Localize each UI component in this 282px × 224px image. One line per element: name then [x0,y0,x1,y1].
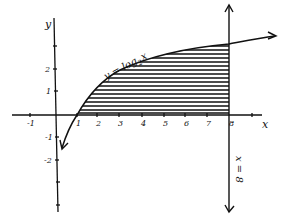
graph-svg: -1 1 2 3 4 5 6 7 8 1 2 -1 -2 y x y = log… [0,0,282,224]
y-tick-label: -2 [44,156,52,165]
curve-arrow-right-icon [268,32,276,39]
x-tick-label: 5 [163,119,168,128]
x-tick-label: -1 [27,119,35,128]
x-tick-label: 8 [229,119,234,128]
x-tick-label: 6 [184,119,189,128]
y-tick-label: -1 [45,133,53,142]
x-tick-label: 1 [76,119,81,128]
graph-canvas: -1 1 2 3 4 5 6 7 8 1 2 -1 -2 y x y = log… [0,0,282,224]
x-tick-labels: -1 1 2 3 4 5 6 7 8 [27,119,234,128]
x-tick-label: 3 [118,119,123,128]
y-axis-label: y [44,18,52,31]
y-tick-label: 2 [44,65,50,74]
curve-label: y = log2x [101,50,150,85]
x-tick-label: 7 [206,119,212,128]
shaded-area [60,46,235,113]
x-axis-label: x [262,118,269,131]
x-tick-label: 2 [95,119,101,128]
x-tick-label: 4 [140,119,146,128]
y-tick-label: 1 [46,87,51,96]
vertical-line-x8 [225,5,234,212]
vertical-line-label: x = 8 [234,156,245,183]
log-curve [62,36,275,148]
